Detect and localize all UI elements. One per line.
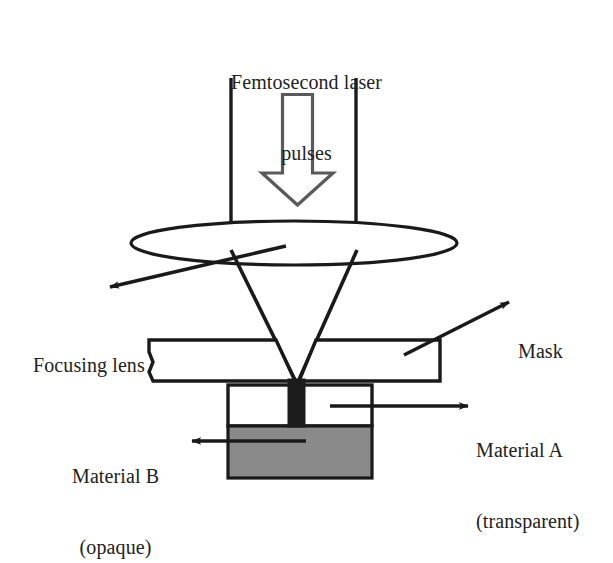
laser-drilled-channel xyxy=(288,379,305,427)
label-material-a-line2: (transparent) xyxy=(476,510,579,534)
label-laser-source-line2: pulses xyxy=(0,142,613,166)
focusing-lens-ellipse xyxy=(131,221,457,265)
label-focusing-lens-text: Focusing lens xyxy=(33,354,145,378)
label-material-b-line2: (opaque) xyxy=(72,536,159,560)
label-laser-source: Femtosecond laser pulses xyxy=(0,24,613,213)
label-laser-source-line1: Femtosecond laser xyxy=(0,71,613,95)
label-material-a: Material A (transparent) xyxy=(476,392,579,563)
label-focusing-lens: Focusing lens xyxy=(33,307,145,425)
label-material-b: Material B (opaque) xyxy=(72,418,159,563)
label-mask-text: Mask xyxy=(518,340,563,364)
label-material-a-line1: Material A xyxy=(476,439,579,463)
mask-leader-arrow xyxy=(404,302,509,355)
material-b-opaque-layer xyxy=(228,426,372,478)
label-material-b-line1: Material B xyxy=(72,465,159,489)
mask-plate-left xyxy=(149,340,295,381)
